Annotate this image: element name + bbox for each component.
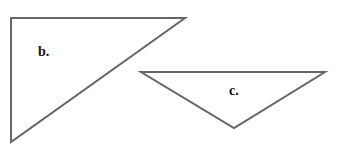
triangle-b [11,18,185,142]
triangle-c-label: c. [229,83,239,99]
triangle-c [141,72,325,128]
triangle-b-label: b. [38,44,49,60]
triangles-diagram [0,0,339,146]
